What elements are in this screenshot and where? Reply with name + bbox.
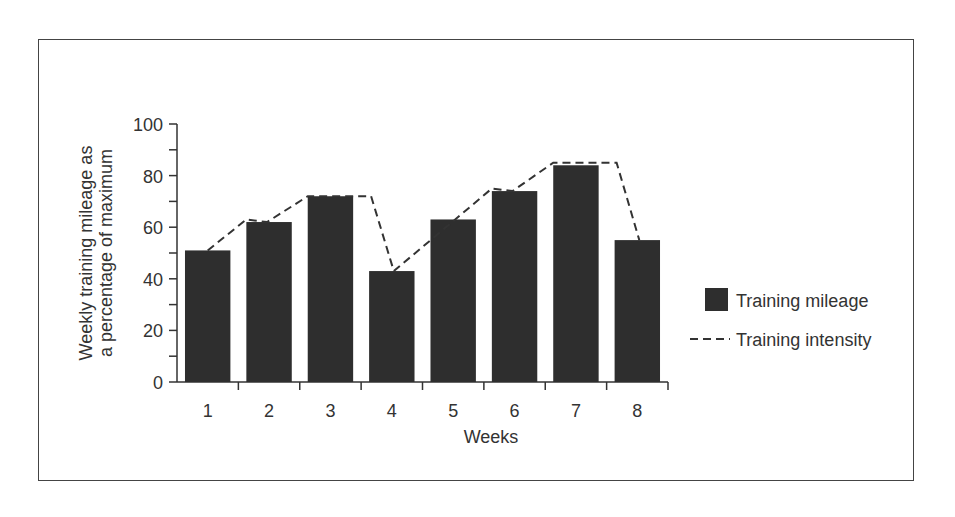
y-axis-title-line1: Weekly training mileage as — [76, 146, 96, 361]
bar — [246, 222, 291, 382]
x-tick-label: 4 — [387, 401, 397, 421]
bar — [185, 250, 230, 382]
y-tick-label: 60 — [143, 218, 163, 238]
y-tick-label: 0 — [153, 373, 163, 393]
legend: Training mileage Training intensity — [690, 288, 871, 350]
y-tick-label: 20 — [143, 321, 163, 341]
y-tick-label: 80 — [143, 167, 163, 187]
x-tick-label: 8 — [632, 401, 642, 421]
y-axis: 020406080100 — [133, 115, 177, 393]
bar — [553, 165, 598, 382]
x-tick-label: 7 — [571, 401, 581, 421]
bar — [615, 240, 660, 382]
x-tick-label: 2 — [264, 401, 274, 421]
y-tick-label: 100 — [133, 115, 163, 135]
x-axis: 12345678 — [177, 382, 668, 421]
bars-training-mileage — [185, 165, 660, 382]
y-tick-label: 40 — [143, 270, 163, 290]
x-tick-label: 1 — [203, 401, 213, 421]
x-axis-title: Weeks — [464, 427, 519, 447]
legend-label-training-intensity: Training intensity — [736, 330, 871, 350]
legend-label-training-mileage: Training mileage — [736, 291, 868, 311]
y-axis-title-line2: a percentage of maximum — [96, 149, 116, 357]
x-tick-label: 5 — [448, 401, 458, 421]
legend-swatch-training-mileage — [705, 288, 728, 311]
bar-chart: 020406080100 12345678 Weekly training mi… — [0, 0, 955, 517]
bar — [308, 196, 353, 382]
bar — [430, 219, 475, 382]
bar — [492, 191, 537, 382]
x-tick-label: 3 — [325, 401, 335, 421]
bar — [369, 271, 414, 382]
x-tick-label: 6 — [510, 401, 520, 421]
